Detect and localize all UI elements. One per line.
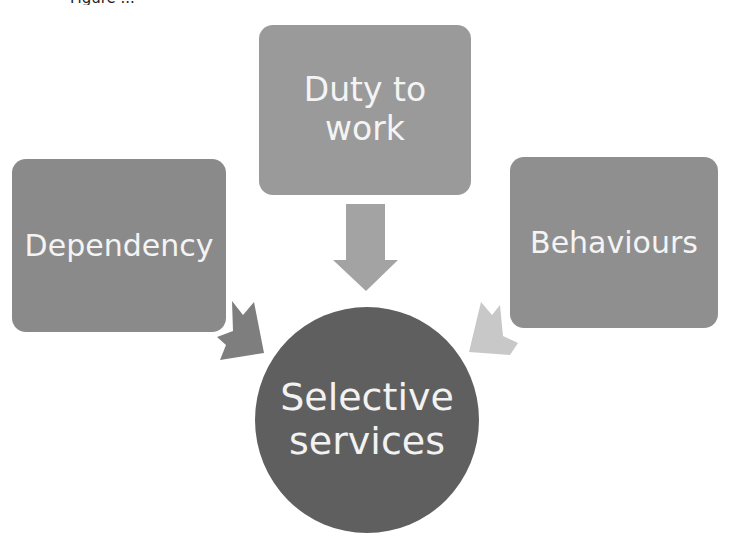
- arrow-down-left-icon: [469, 302, 518, 355]
- center-label-line2: services: [289, 420, 445, 464]
- center-label-line1: Selective: [280, 376, 454, 420]
- center-circle-selective-services: Selective services: [255, 307, 479, 533]
- arrow-down-icon: [333, 204, 398, 291]
- arrow-down-right-icon: [217, 301, 264, 360]
